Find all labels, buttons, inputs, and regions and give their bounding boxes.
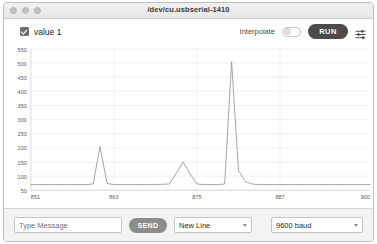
series-label: value 1 — [34, 27, 61, 37]
plotter-toolbar: value 1 Interpolate RUN — [4, 19, 373, 44]
line-ending-value: New Line — [179, 221, 210, 230]
svg-text:100: 100 — [18, 174, 27, 180]
series-checkbox[interactable] — [20, 27, 29, 36]
line-chart: 5010015020025030035040045050055085186387… — [4, 44, 373, 208]
send-button[interactable]: SEND — [129, 218, 167, 233]
svg-text:900: 900 — [361, 194, 370, 200]
interpolate-label: Interpolate — [240, 27, 275, 36]
series-toggle-value-1[interactable]: value 1 — [20, 27, 61, 37]
svg-text:550: 550 — [18, 47, 27, 53]
svg-text:875: 875 — [192, 194, 201, 200]
serial-plotter-window: /dev/cu.usbserial-1410 value 1 Interpola… — [3, 2, 374, 242]
chevron-down-icon — [243, 224, 247, 227]
svg-text:250: 250 — [18, 131, 27, 137]
toggle-knob — [284, 28, 291, 35]
toolbar-right-group: Interpolate RUN — [240, 24, 366, 39]
svg-text:450: 450 — [18, 75, 27, 81]
window-titlebar: /dev/cu.usbserial-1410 — [4, 3, 373, 19]
svg-text:300: 300 — [18, 117, 27, 123]
chevron-down-icon — [354, 224, 358, 227]
window-title: /dev/cu.usbserial-1410 — [4, 5, 373, 14]
svg-text:887: 887 — [275, 194, 284, 200]
svg-text:350: 350 — [18, 103, 27, 109]
svg-text:851: 851 — [31, 194, 40, 200]
serial-console-bar: SEND New Line 9600 baud — [4, 208, 373, 241]
message-input[interactable] — [14, 217, 122, 233]
svg-text:863: 863 — [109, 194, 118, 200]
svg-text:150: 150 — [18, 160, 27, 166]
svg-text:200: 200 — [18, 145, 27, 151]
sliders-icon[interactable] — [355, 26, 366, 37]
interpolate-toggle[interactable] — [282, 27, 301, 37]
svg-text:50: 50 — [21, 188, 27, 194]
svg-text:400: 400 — [18, 89, 27, 95]
svg-text:500: 500 — [18, 61, 27, 67]
run-button[interactable]: RUN — [308, 24, 348, 39]
baud-rate-select[interactable]: 9600 baud — [271, 217, 363, 233]
baud-rate-value: 9600 baud — [276, 221, 311, 230]
plot-area: 5010015020025030035040045050055085186387… — [4, 44, 373, 208]
line-ending-select[interactable]: New Line — [174, 217, 252, 233]
